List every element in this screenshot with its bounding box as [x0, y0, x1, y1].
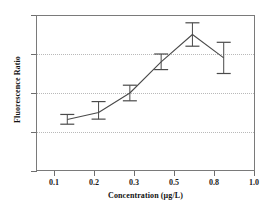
x-tick-mark-3 [174, 171, 175, 176]
x-tick-label-2: 0.3 [117, 178, 151, 187]
x-tick-label-5: 1.0 [237, 178, 270, 187]
x-tick-mark-2 [134, 171, 135, 176]
fluorescence-ratio-chart: 4 3 2 1 0 0.1 0.2 0.3 0.5 0.8 1.0 Concen… [0, 0, 270, 208]
gridline-y-3 [37, 54, 254, 55]
x-tick-mark-4 [214, 171, 215, 176]
plot-area [36, 15, 255, 171]
x-tick-mark-5 [254, 171, 255, 176]
y-axis-title: Fluorescence Ratio [13, 15, 22, 165]
y-tick-mark-0 [31, 171, 37, 172]
x-axis-title: Concentration (µg/L) [36, 191, 255, 200]
x-tick-mark-1 [94, 171, 95, 176]
x-tick-label-3: 0.5 [157, 178, 191, 187]
x-tick-label-0: 0.1 [37, 178, 71, 187]
x-tick-label-4: 0.8 [197, 178, 231, 187]
x-tick-mark-0 [54, 171, 55, 176]
gridline-y-2 [37, 93, 254, 94]
gridline-y-1 [37, 132, 254, 133]
x-tick-label-1: 0.2 [77, 178, 111, 187]
